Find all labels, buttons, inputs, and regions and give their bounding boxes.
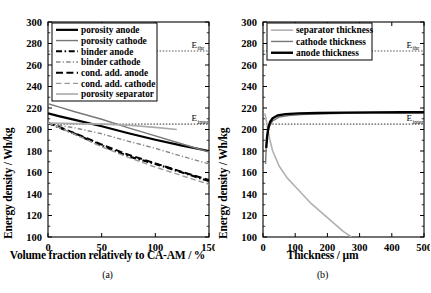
svg-text:thr: thr <box>198 45 205 51</box>
svg-text:120: 120 <box>241 210 257 221</box>
svg-text:220: 220 <box>26 103 42 114</box>
svg-text:120: 120 <box>26 210 42 221</box>
svg-text:140: 140 <box>241 189 257 200</box>
svg-text:140: 140 <box>26 189 42 200</box>
svg-text:200: 200 <box>241 124 257 135</box>
svg-text:binder anode: binder anode <box>81 47 133 57</box>
svg-text:inter: inter <box>198 119 209 125</box>
svg-text:porosity anode: porosity anode <box>81 25 139 35</box>
panel-a-xlabel: Volume fraction relatively to CA-AM / % <box>0 249 215 261</box>
panel-b-ylabel: Energy density / Wh/kg <box>217 128 229 239</box>
panel-a: 1001201401601802002202402602803000501001… <box>0 0 215 293</box>
svg-text:160: 160 <box>241 167 257 178</box>
svg-text:cond. add. cathode: cond. add. cathode <box>81 79 155 89</box>
svg-text:280: 280 <box>241 38 257 49</box>
svg-text:100: 100 <box>241 232 257 243</box>
svg-text:280: 280 <box>26 38 42 49</box>
svg-text:thr: thr <box>413 45 420 51</box>
svg-text:160: 160 <box>26 167 42 178</box>
svg-text:240: 240 <box>26 81 42 92</box>
svg-text:anode thickness: anode thickness <box>296 48 359 58</box>
svg-text:porosity cathode: porosity cathode <box>81 36 147 46</box>
svg-text:180: 180 <box>26 146 42 157</box>
figure-container: 1001201401601802002202402602803000501001… <box>0 0 431 293</box>
panel-b: 1001201401601802002202402602803000100200… <box>215 0 430 293</box>
panel-a-ylabel: Energy density / Wh/kg <box>2 128 14 239</box>
svg-text:porosity separator: porosity separator <box>81 89 154 99</box>
svg-text:cond. add. anode: cond. add. anode <box>81 68 148 78</box>
svg-text:binder cathode: binder cathode <box>81 57 141 67</box>
panel-b-caption: (b) <box>215 269 430 280</box>
panel-a-caption: (a) <box>0 269 215 280</box>
svg-text:inter: inter <box>413 119 424 125</box>
svg-text:100: 100 <box>26 232 42 243</box>
svg-text:cathode thickness: cathode thickness <box>296 37 366 47</box>
svg-text:separator thickness: separator thickness <box>296 25 373 35</box>
svg-text:220: 220 <box>241 103 257 114</box>
svg-text:200: 200 <box>26 124 42 135</box>
svg-text:260: 260 <box>241 60 257 71</box>
svg-text:180: 180 <box>241 146 257 157</box>
svg-text:260: 260 <box>26 60 42 71</box>
svg-text:240: 240 <box>241 81 257 92</box>
panel-b-xlabel: Thickness / µm <box>215 249 430 261</box>
svg-text:300: 300 <box>26 17 42 28</box>
svg-text:300: 300 <box>241 17 257 28</box>
